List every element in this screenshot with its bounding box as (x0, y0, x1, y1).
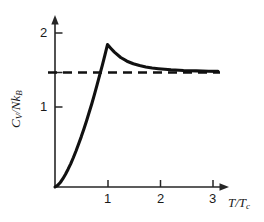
x-axis-title-sub-c: c (246, 201, 250, 211)
y-axis-title-over-n: /N (8, 102, 23, 114)
y-axis-title: CV/NkB (9, 114, 22, 128)
y-axis-title-c: C (8, 119, 23, 128)
y-axis-title-sub-v: V (14, 114, 24, 120)
y-axis-title-sub-b: B (14, 90, 24, 96)
figure-container: 2 1 1 2 3 CV/NkB T/Tc (0, 0, 264, 222)
y-axis-title-k: k (8, 96, 23, 102)
x-axis-title-over-t: /T (235, 195, 246, 210)
x-axis-tick-label-3: 3 (209, 192, 216, 205)
y-axis-arrowhead (51, 15, 58, 25)
x-axis-arrowhead (220, 183, 230, 190)
heat-capacity-curve (55, 45, 218, 187)
x-axis-title: T/Tc (228, 196, 250, 209)
y-axis-group (51, 15, 62, 187)
x-axis-tick-label-1: 1 (104, 192, 111, 205)
x-axis-tick-label-2: 2 (157, 192, 164, 205)
y-axis-tick-label-2: 2 (40, 26, 47, 39)
y-axis-tick-label-1: 1 (40, 100, 47, 113)
x-axis-group (55, 180, 229, 191)
